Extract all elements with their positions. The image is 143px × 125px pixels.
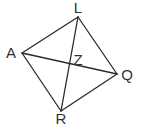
side-LQ [78,17,117,74]
vertex-label-R: R [56,110,67,125]
side-RA [22,53,61,111]
side-AL [22,17,78,53]
vertex-label-L: L [74,0,82,16]
diagonal-AQ [22,53,117,74]
intersection-label-Z: Z [73,51,82,68]
vertex-label-Q: Q [121,66,133,83]
side-QR [61,74,117,111]
quadrilateral-diagram: L A Q R Z [0,0,143,125]
vertex-label-A: A [6,44,16,61]
